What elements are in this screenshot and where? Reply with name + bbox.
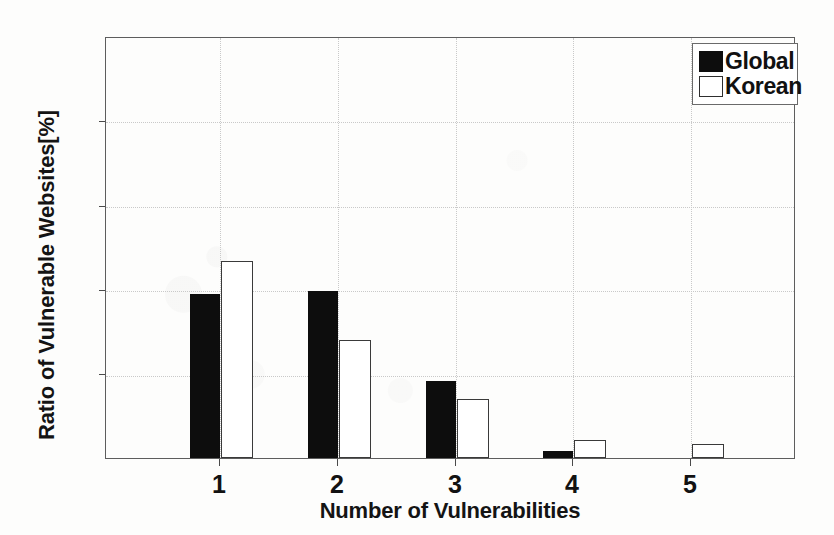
- gridline-x-4: [573, 38, 574, 458]
- legend-swatch-global-icon: [699, 51, 723, 72]
- x-tick-label-1: 1: [199, 470, 239, 499]
- gridline-x-3: [456, 38, 457, 458]
- x-tick-label-2: 2: [317, 470, 357, 499]
- legend-item-korean: Korean: [699, 74, 791, 99]
- bar-global-2: [308, 291, 338, 458]
- gridline-y-40: [106, 291, 794, 292]
- chart-figure: Ratio of Vulnerable Websites[%] 0 20 40 …: [0, 0, 834, 535]
- legend-label-global: Global: [725, 50, 794, 73]
- x-tick-mark-5: [690, 459, 691, 466]
- legend-label-korean: Korean: [725, 75, 802, 98]
- gridline-y-60: [106, 207, 794, 208]
- x-axis-title: Number of Vulnerabilities: [105, 498, 795, 524]
- gridline-y-80: [106, 122, 794, 123]
- bar-korean-1: [221, 261, 253, 458]
- legend: Global Korean: [692, 43, 798, 105]
- bar-global-4: [543, 451, 573, 458]
- x-tick-label-5: 5: [670, 470, 710, 499]
- bar-korean-4: [574, 440, 606, 458]
- bar-global-3: [426, 381, 456, 458]
- x-tick-mark-3: [455, 459, 456, 466]
- legend-swatch-korean-icon: [699, 76, 723, 97]
- x-tick-label-4: 4: [552, 470, 592, 499]
- bar-korean-5: [692, 444, 724, 458]
- bar-korean-3: [457, 399, 489, 458]
- bar-korean-2: [339, 340, 371, 458]
- legend-item-global: Global: [699, 49, 791, 74]
- x-tick-mark-2: [337, 459, 338, 466]
- x-tick-label-3: 3: [435, 470, 475, 499]
- bar-global-1: [190, 294, 220, 458]
- x-tick-mark-4: [572, 459, 573, 466]
- y-axis-title: Ratio of Vulnerable Websites[%]: [34, 110, 60, 440]
- x-tick-mark-1: [219, 459, 220, 466]
